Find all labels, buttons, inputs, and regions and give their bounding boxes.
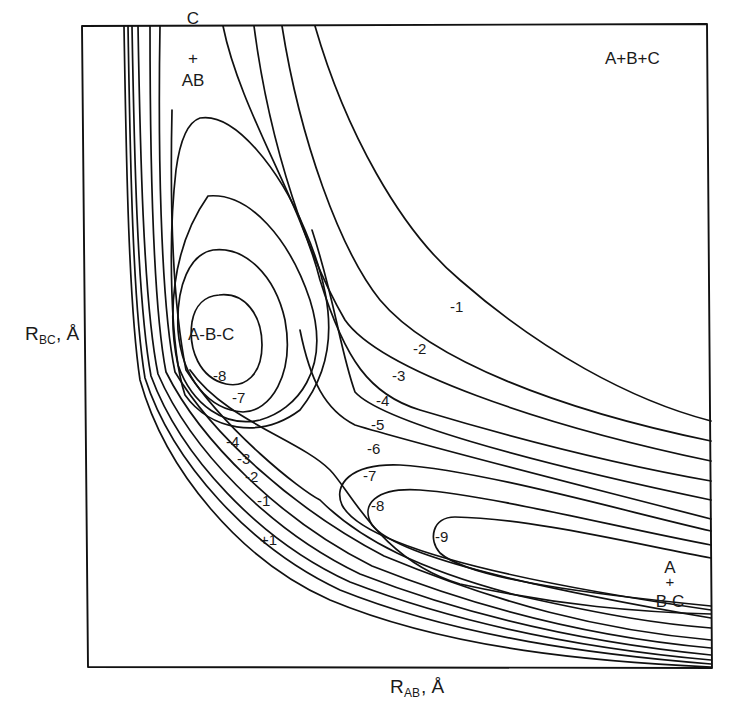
label-wall-minus2: -2 <box>245 468 258 485</box>
plot-frame <box>82 24 712 668</box>
x-axis-label-unit: , Å <box>421 676 445 697</box>
label-band-minus1: -1 <box>450 298 463 315</box>
label-channel-minus9: -9 <box>435 528 448 545</box>
label-band-minus5: -5 <box>371 416 384 433</box>
product-label: A + B C <box>656 558 684 611</box>
potential-energy-contour-diagram: C + AB A+B+C A-B-C A + B C -8 -7 -1 -2 -… <box>0 0 734 719</box>
contour-value-labels: -8 -7 -1 -2 -3 -4 -5 -6 -7 -8 -9 -4 -3 -… <box>213 298 463 548</box>
reactant-label-ab: AB <box>182 71 205 90</box>
label-band-minus4: -4 <box>376 392 389 409</box>
label-band-minus2: -2 <box>413 340 426 357</box>
x-axis-label: R AB , Å <box>390 676 445 700</box>
label-wall-minus4: -4 <box>226 433 239 450</box>
label-well-minus7: -7 <box>232 389 245 406</box>
reactant-label-c: C <box>187 9 199 28</box>
y-axis-label-main: R <box>25 323 39 344</box>
product-label-plus: + <box>666 573 675 590</box>
label-band-minus3: -3 <box>392 367 405 384</box>
well-contours <box>171 118 328 428</box>
label-channel-minus8: -8 <box>371 497 384 514</box>
label-band-minus6: -6 <box>367 440 380 457</box>
label-wall-minus3: -3 <box>237 450 250 467</box>
reactant-label: C + AB <box>182 9 205 90</box>
x-axis-label-subscript: AB <box>404 686 420 700</box>
dissociation-label: A+B+C <box>605 49 660 68</box>
y-axis-label-unit: , Å <box>56 323 80 344</box>
label-well-minus8: -8 <box>213 367 226 384</box>
product-label-bc: B C <box>656 592 684 611</box>
label-wall-minus1: -1 <box>257 492 270 509</box>
y-axis-label-subscript: BC <box>39 333 56 347</box>
band-contours <box>223 26 711 519</box>
reactant-label-plus: + <box>188 49 198 68</box>
y-axis-label: R BC , Å <box>25 323 80 347</box>
label-channel-minus7: -7 <box>363 467 376 484</box>
well-label: A-B-C <box>188 325 234 344</box>
label-wall-plus1: +1 <box>260 531 277 548</box>
x-axis-label-main: R <box>390 676 404 697</box>
